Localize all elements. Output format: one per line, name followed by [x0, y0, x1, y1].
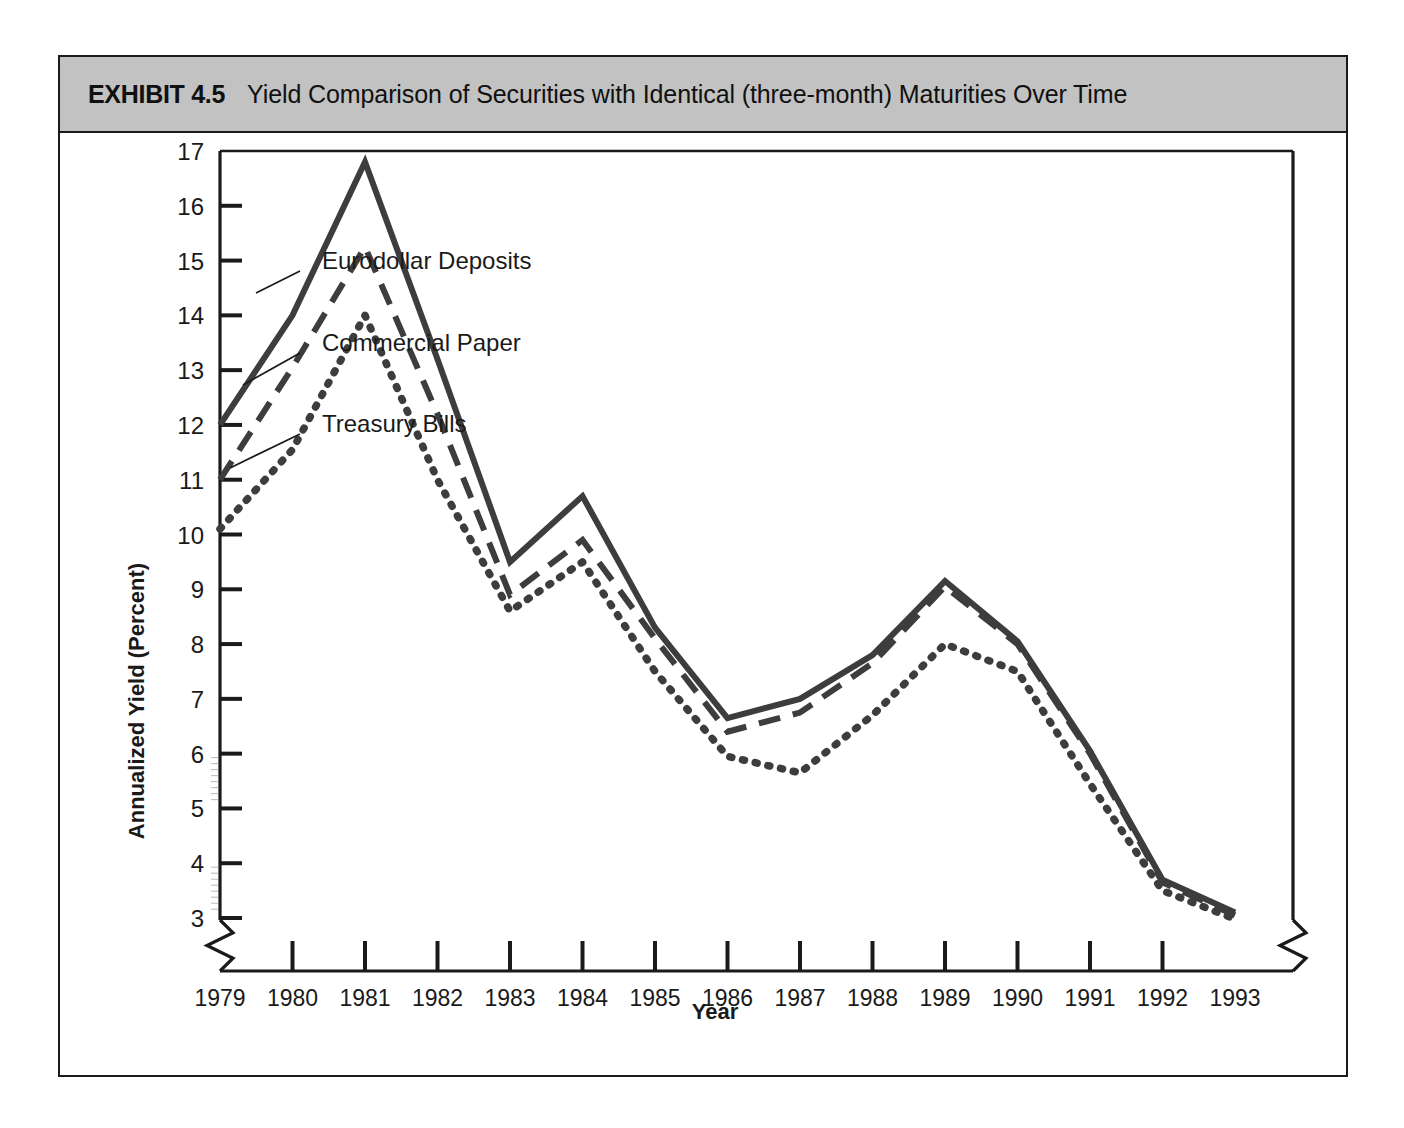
axis-break-symbol — [207, 920, 233, 971]
yield-comparison-line-chart: Annualized Yield (Percent) Year 34567891… — [60, 133, 1346, 1077]
chart-series — [220, 162, 1235, 919]
y-tick-label: 15 — [177, 248, 204, 275]
exhibit-page: EXHIBIT 4.5 Yield Comparison of Securiti… — [0, 0, 1404, 1128]
y-tick-label: 8 — [191, 631, 204, 658]
series-annotations: Eurodollar DepositsCommercial PaperTreas… — [230, 247, 531, 468]
x-tick-label: 1989 — [919, 985, 970, 1011]
x-tick-label: 1987 — [774, 985, 825, 1011]
x-tick-label: 1991 — [1064, 985, 1115, 1011]
chart-plot-area: Annualized Yield (Percent) Year 34567891… — [60, 133, 1346, 1077]
y-tick-label: 16 — [177, 193, 204, 220]
y-axis-ticks: 34567891011121314151617 — [177, 138, 242, 932]
x-tick-label: 1980 — [267, 985, 318, 1011]
x-tick-label: 1993 — [1209, 985, 1260, 1011]
axis-break-symbol — [1280, 920, 1306, 971]
series-label-eurodollar-deposits: Eurodollar Deposits — [322, 247, 531, 274]
x-tick-label: 1985 — [629, 985, 680, 1011]
y-axis-title: Annualized Yield (Percent) — [124, 563, 149, 839]
scan-artifacts — [211, 758, 218, 910]
y-tick-label: 5 — [191, 795, 204, 822]
y-tick-label: 7 — [191, 686, 204, 713]
y-tick-label: 17 — [177, 138, 204, 165]
annotation-leader-line — [243, 353, 300, 385]
y-tick-label: 11 — [179, 467, 204, 494]
x-tick-label: 1984 — [557, 985, 608, 1011]
exhibit-frame: EXHIBIT 4.5 Yield Comparison of Securiti… — [58, 55, 1348, 1077]
y-tick-label: 10 — [177, 522, 204, 549]
y-tick-label: 4 — [191, 850, 204, 877]
exhibit-title-bar: EXHIBIT 4.5 Yield Comparison of Securiti… — [60, 57, 1346, 133]
x-tick-label: 1992 — [1137, 985, 1188, 1011]
y-tick-label: 14 — [177, 302, 204, 329]
y-tick-label: 9 — [191, 576, 204, 603]
series-line-eurodollar-deposits — [220, 162, 1235, 913]
series-label-treasury-bills: Treasury Bills — [322, 410, 466, 437]
series-label-commercial-paper: Commercial Paper — [322, 329, 521, 356]
y-tick-label: 12 — [177, 412, 204, 439]
x-tick-label: 1983 — [484, 985, 535, 1011]
series-line-treasury-bills — [220, 315, 1235, 919]
annotation-leader-line — [256, 271, 300, 293]
x-tick-label: 1988 — [847, 985, 898, 1011]
y-tick-label: 13 — [177, 357, 204, 384]
exhibit-title: Yield Comparison of Securities with Iden… — [247, 80, 1127, 109]
x-tick-label: 1982 — [412, 985, 463, 1011]
y-tick-label: 3 — [191, 905, 204, 932]
x-axis-ticks: 1979198019811982198319841985198619871988… — [194, 941, 1260, 1011]
x-tick-label: 1979 — [194, 985, 245, 1011]
x-tick-label: 1986 — [702, 985, 753, 1011]
x-tick-label: 1990 — [992, 985, 1043, 1011]
y-tick-label: 6 — [191, 741, 204, 768]
x-tick-label: 1981 — [339, 985, 390, 1011]
exhibit-number: EXHIBIT 4.5 — [88, 80, 225, 109]
